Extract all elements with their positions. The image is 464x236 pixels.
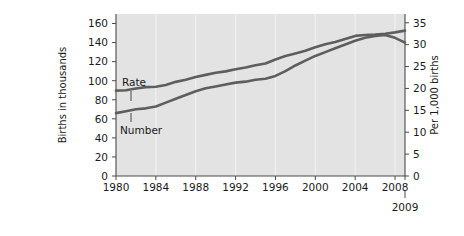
right-tick-label: 0 (413, 170, 420, 182)
left-tick-label: 140 (88, 36, 108, 48)
right-tick-label: 10 (413, 126, 426, 138)
right-axis-title: Per 1,000 births (429, 55, 440, 135)
left-tick-label: 120 (88, 55, 108, 67)
x-tick-label: 1980 (103, 181, 130, 193)
x-tick-label: 2004 (342, 181, 369, 193)
rate-series-label: Rate (122, 76, 146, 88)
number-series-label: Number (120, 124, 163, 136)
left-axis-title: Births in thousands (57, 47, 68, 144)
final-year-label: 2009 (392, 201, 419, 213)
left-tick-label: 0 (101, 170, 108, 182)
left-tick-label: 60 (95, 113, 108, 125)
chart-figure: 020406080100120140160 05101520253035 198… (0, 0, 464, 236)
left-tick-label: 40 (95, 132, 108, 144)
line-chart: 020406080100120140160 05101520253035 198… (0, 0, 464, 236)
x-tick-label: 1988 (182, 181, 209, 193)
right-tick-label: 30 (413, 38, 426, 50)
x-tick-label: 1984 (142, 181, 169, 193)
x-tick-label: 1996 (262, 181, 289, 193)
left-tick-label: 80 (95, 94, 108, 106)
left-tick-label: 100 (88, 75, 108, 87)
left-tick-label: 160 (88, 17, 108, 29)
right-tick-label: 25 (413, 60, 426, 72)
x-tick-label: 1992 (222, 181, 249, 193)
left-tick-label: 20 (95, 151, 108, 163)
x-tick-label: 2000 (302, 181, 329, 193)
x-tick-label: 2008 (382, 181, 409, 193)
right-tick-label: 20 (413, 82, 426, 94)
right-tick-label: 35 (413, 17, 426, 29)
right-tick-label: 15 (413, 104, 426, 116)
right-tick-label: 5 (413, 148, 420, 160)
